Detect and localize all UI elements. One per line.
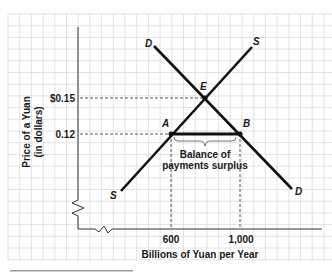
- x-axis-title: Billions of Yuan per Year: [142, 249, 259, 260]
- point-e-label: E: [200, 81, 207, 92]
- point-a-label: A: [161, 118, 169, 129]
- point-b-marker: [238, 132, 243, 137]
- demand-label-top: D: [145, 38, 152, 49]
- point-a-marker: [169, 132, 174, 137]
- y-axis-title-line1: Price of a Yuan: [21, 96, 32, 168]
- supply-label-top: S: [253, 36, 260, 47]
- y-axis: [72, 27, 84, 229]
- y-tick-015: $0.15: [50, 93, 75, 104]
- surplus-annotation-line1: Balance of: [180, 149, 231, 160]
- supply-label-bottom: S: [110, 190, 117, 201]
- chart-figure: E A B D D S S Balance of payments surplu…: [0, 0, 332, 277]
- y-axis-title-line2: (in dollars): [33, 106, 44, 157]
- x-axis-break-icon: [78, 226, 322, 233]
- point-b-label: B: [243, 118, 250, 129]
- bottom-rule: [10, 270, 133, 272]
- surplus-annotation-line2: payments surplus: [162, 160, 248, 171]
- demand-label-bottom: D: [295, 186, 302, 197]
- x-tick-1000: 1,000: [228, 234, 253, 245]
- y-tick-012: 0.12: [56, 129, 76, 140]
- x-axis: [78, 226, 322, 233]
- x-tick-600: 600: [163, 234, 180, 245]
- point-e-marker: [203, 96, 208, 101]
